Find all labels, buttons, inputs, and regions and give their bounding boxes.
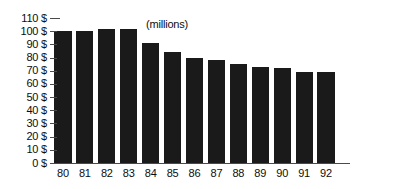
y-axis-tick-label: 0 $	[32, 157, 50, 168]
x-axis-tick-label: 85	[162, 166, 184, 180]
x-axis-tick-label: 92	[315, 166, 337, 180]
y-axis-tick-mark	[50, 150, 57, 151]
y-axis: 110 $100 $90 $80 $70 $60 $50 $40 $30 $20…	[0, 14, 50, 170]
bar-84	[142, 43, 159, 163]
y-axis-tick-mark	[50, 123, 57, 124]
y-axis-tick-mark	[50, 110, 57, 111]
bar-89	[252, 67, 269, 163]
y-axis-tick-mark	[50, 44, 57, 45]
y-axis-tick-label: 80 $	[26, 52, 50, 63]
x-axis-tick-label: 80	[52, 166, 74, 180]
y-axis-tick-label: 50 $	[26, 91, 50, 102]
bar-91	[296, 72, 313, 163]
bar-88	[230, 64, 247, 163]
bar-81	[76, 31, 93, 163]
x-axis-tick-label: 81	[74, 166, 96, 180]
y-axis-tick-label: 30 $	[26, 117, 50, 128]
y-axis-tick-mark	[50, 97, 57, 98]
x-axis-tick-label: 88	[227, 166, 249, 180]
y-axis-tick-mark	[50, 58, 57, 59]
x-axis-tick-label: 90	[271, 166, 293, 180]
y-axis-tick-mark	[50, 137, 57, 138]
y-axis-tick-label: 40 $	[26, 104, 50, 115]
x-axis: 80818283848586878889909192	[52, 166, 337, 186]
y-axis-tick-mark	[50, 71, 57, 72]
y-axis-tick-mark	[50, 84, 57, 85]
y-axis-tick-label: 100 $	[20, 25, 50, 36]
y-axis-tick-label: 90 $	[26, 38, 50, 49]
bar-82	[98, 29, 115, 163]
x-axis-tick-label: 84	[140, 166, 162, 180]
y-axis-tick-label: 110 $	[21, 12, 50, 23]
bar-83	[120, 29, 137, 163]
x-axis-baseline	[50, 163, 350, 164]
y-axis-tick-label: 10 $	[26, 144, 50, 155]
y-axis-tick-mark	[50, 18, 60, 19]
bar-86	[186, 58, 203, 163]
plot-area	[52, 18, 337, 163]
y-axis-tick-label: 70 $	[26, 65, 50, 76]
bar-chart: 110 $100 $90 $80 $70 $60 $50 $40 $30 $20…	[0, 0, 394, 189]
bar-85	[164, 52, 181, 163]
x-axis-tick-label: 87	[205, 166, 227, 180]
bar-92	[317, 72, 334, 163]
y-axis-tick-label: 20 $	[26, 131, 50, 142]
units-annotation: (millions)	[146, 18, 188, 30]
bar-87	[208, 60, 225, 163]
x-axis-tick-label: 82	[96, 166, 118, 180]
y-axis-tick-mark	[50, 31, 57, 32]
y-axis-tick-label: 60 $	[26, 78, 50, 89]
y-axis-tick-mark	[50, 163, 57, 164]
x-axis-tick-label: 89	[249, 166, 271, 180]
x-axis-tick-label: 86	[184, 166, 206, 180]
x-axis-tick-label: 91	[293, 166, 315, 180]
x-axis-tick-label: 83	[118, 166, 140, 180]
bar-90	[274, 68, 291, 163]
